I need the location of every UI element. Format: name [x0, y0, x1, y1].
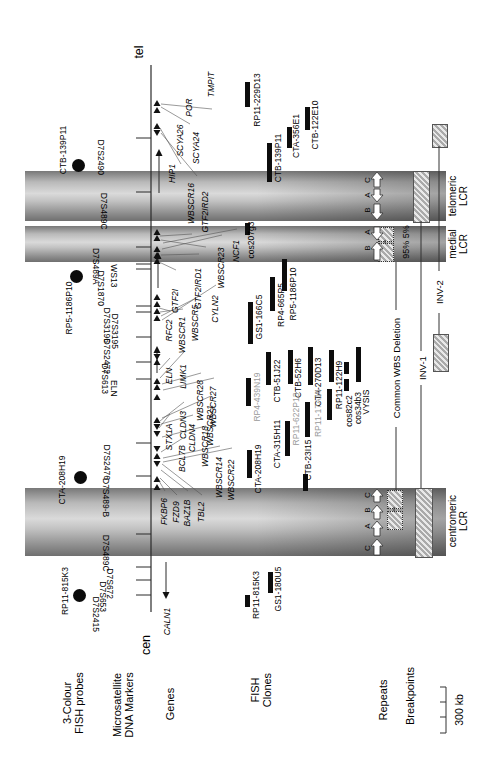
tel-label: tel — [133, 45, 147, 58]
strand-triangle-up — [154, 378, 161, 384]
probe-label-RP5-1186P10: RP5-1186P10 — [65, 282, 74, 335]
gene-label-CYLN2: CYLN2 — [211, 295, 220, 322]
gene-label-LIMK1: LIMK1 — [179, 364, 188, 389]
strand-triangle-up — [154, 229, 161, 235]
lcr-block-letter-medial-B: B — [364, 245, 373, 250]
lcr-label-medial: medial LCR — [448, 229, 470, 258]
strand-triangle-up — [154, 315, 161, 321]
clone-bar-CTB-52H6 — [288, 350, 293, 384]
gene-label-NCF1: NCF1 — [232, 240, 241, 262]
gene-label-CALN1: CALN1 — [163, 608, 172, 635]
clone-bar-CTA-315H11 — [285, 421, 290, 456]
gene-leader-RFC2 — [159, 308, 170, 311]
lcr-block-letter-telomeric-B: B — [364, 207, 373, 212]
lcr-block-letter-telomeric-A: A — [364, 192, 373, 197]
strand-triangle-down — [154, 461, 161, 467]
marker-label-ELN: ELN — [108, 380, 117, 397]
strand-triangle-up — [154, 359, 161, 365]
marker-label-D7S2490: D7S2490 — [95, 139, 104, 174]
clone-bar-RP11-229D13 — [245, 82, 250, 107]
strand-triangle-up — [154, 246, 161, 252]
lcr-label-telomeric: telomeric LCR — [448, 176, 470, 217]
gene-label-GTF2IRD1: GTF2IRD1 — [194, 268, 203, 309]
gene-label-FZD9: FZD9 — [172, 501, 181, 522]
gene-label-FKBP6: FKBP6 — [160, 498, 169, 525]
marker-label-D7S2476: D7S2476 — [101, 444, 110, 479]
inv2-label: INV-2 — [435, 280, 445, 304]
strand-triangle-up — [154, 123, 161, 129]
marker-label-D7S1870: D7S1870 — [95, 270, 104, 305]
strand-triangle-up — [154, 294, 161, 300]
gene-label-GTF2I: GTF2I — [171, 289, 180, 313]
lcr-block-arrow-medial — [371, 242, 383, 260]
clone-bar-CTB-51J22 — [266, 352, 271, 385]
marker-label-D7S613: D7S613 — [99, 363, 108, 394]
lcr-block-letter-centromeric-B: B — [364, 507, 373, 512]
strand-triangle-up — [154, 484, 161, 490]
clone-label-CTA-208H19: CTA-208H19 — [254, 445, 263, 494]
clone-bar-VYSIS — [356, 347, 361, 382]
lcr-block-arrow-centromeric — [371, 521, 383, 536]
lcr-block-arrow-telomeric — [371, 189, 383, 202]
marker-label-D7S489-B: D7S489-B — [100, 478, 109, 517]
gene-label-CLDN4: CLDN4 — [188, 424, 197, 452]
lcr-block-letter-medial-A: A — [364, 229, 373, 234]
row-label-genes: Genes — [165, 688, 177, 720]
lcr-block-arrow-telomeric — [371, 204, 383, 220]
clone-label-cos207g3: cos207g3 — [247, 222, 256, 259]
wbs-region-map-figure: telomeric LCRCABmedial LCRABcentromeric … — [0, 0, 493, 765]
probe-label-CTB-139P11: CTB-139P11 — [59, 126, 68, 175]
lcr-block-letter-centromeric-A: A — [364, 523, 373, 528]
gene-label-WBSCR16: WBSCR16 — [187, 183, 196, 224]
clone-bar-CTB-139P11 — [267, 143, 272, 182]
clone-label-CTB-139P11: CTB-139P11 — [274, 134, 283, 183]
gene-label-BCL7B: BCL7B — [178, 445, 187, 472]
strand-triangle-up — [154, 417, 161, 423]
gene-label-SCYA26: SCYA26 — [176, 124, 185, 156]
strand-triangle-down — [154, 130, 161, 136]
row-label-3-colour: 3-Colour FISH probes — [62, 672, 86, 734]
clone-label-RP4-439N19: RP4-439N19 — [253, 372, 262, 421]
gene-label-TMPIT: TMPIT — [207, 72, 216, 98]
clone-label-CTA-315H11: CTA-315H11 — [273, 420, 282, 468]
gene-leader-BAZ1B — [161, 470, 188, 491]
clone-label-RP5-1186P10: RP5-1186P10 — [289, 268, 298, 321]
clone-label-RP11-229D13: RP11-229D13 — [253, 73, 262, 126]
clone-label-RP11-815K3: RP11-815K3 — [252, 571, 261, 619]
probe-dot-RP11-815K3 — [73, 589, 86, 602]
clone-bar-RP4-439N19 — [246, 378, 251, 406]
clone-bar-RP5-1186P10 — [282, 259, 287, 291]
gene-label-WBSCR28: WBSCR28 — [196, 380, 205, 421]
clone-label-CTB-122E10: CTB-122E10 — [311, 100, 320, 149]
gene-label-STX1A: STX1A — [165, 424, 174, 451]
clone-label-CTA-356E1: CTA-356E1 — [292, 114, 301, 158]
clone-label-GS1-166C5: GS1-166C5 — [255, 295, 264, 340]
row-label-breakpoints: Breakpoints — [405, 667, 417, 725]
gene-leader-WBSCR16 — [160, 234, 192, 236]
strand-triangle-up — [154, 394, 161, 400]
clone-bar-GS1-180U5 — [268, 572, 273, 593]
clone-label-CTB-51J22: CTB-51J22 — [273, 360, 282, 403]
gene-leader-GTF2IRD1 — [161, 254, 199, 255]
clone-label-RP11-622P13: RP11-622P13 — [292, 393, 301, 446]
strand-triangle-up — [154, 308, 161, 314]
clone-bar-RP11-815K3 — [245, 595, 250, 607]
gene-label-SCYA24: SCYA24 — [192, 132, 201, 164]
strand-triangle-down — [154, 431, 161, 437]
strand-triangle-up — [154, 235, 161, 241]
marker-label-D7S2415: D7S2415 — [90, 596, 99, 631]
clone-label-GS1-180U5: GS1-180U5 — [274, 567, 283, 612]
strand-triangle-up — [154, 301, 161, 307]
clone-label-VYSIS: VYSIS — [362, 389, 371, 414]
marker-label-WS13: WS13 — [108, 264, 117, 287]
clone-bar-CTA-270D13 — [308, 347, 313, 385]
clone-bar-CTB-122E10 — [305, 107, 310, 130]
gene-label-WBSCR27: WBSCR27 — [209, 386, 218, 427]
strand-triangle-up — [154, 453, 161, 459]
gene-label-ELN: ELN — [165, 368, 174, 385]
clone-bar-RP11-17A14 — [327, 389, 332, 420]
strand-triangle-down — [154, 446, 161, 452]
probe-dot-CTB-139P11 — [72, 159, 85, 172]
clone-bar-cos82c2 — [344, 362, 349, 374]
probe-label-RP11-815K3: RP11-815K3 — [61, 567, 70, 615]
